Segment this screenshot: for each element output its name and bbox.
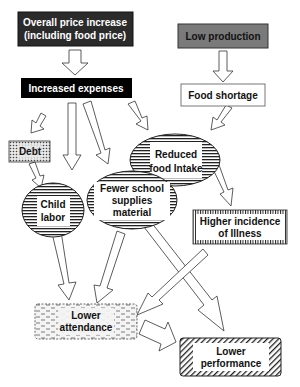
node-label: Debt xyxy=(19,146,42,157)
node-label: Overall price increase xyxy=(23,17,127,28)
arrow-expenses-to-debt xyxy=(31,113,46,133)
node-label: Increased expenses xyxy=(28,83,123,94)
arrow-supplies-to-attendance xyxy=(94,231,125,303)
node-label: Fewer school xyxy=(100,183,164,194)
node-lower-performance: Lower performance xyxy=(180,338,281,376)
node-label: supplies xyxy=(112,195,153,206)
node-label: labor xyxy=(41,212,66,223)
node-label: food Intake xyxy=(149,163,203,174)
node-lower-attendance: Lower attendance xyxy=(35,304,137,339)
node-label: material xyxy=(113,207,152,218)
node-child-labor: Child labor xyxy=(22,183,84,237)
node-label: performance xyxy=(201,358,262,369)
arrow-production-to-shortage xyxy=(213,51,233,82)
node-label: Reduced xyxy=(155,149,197,160)
node-label: of Illness xyxy=(218,228,262,239)
arrow-expenses-to-supplies xyxy=(83,101,110,164)
node-higher-illness: Higher incidence of Illness xyxy=(193,210,287,244)
arrow-childlabor-to-attendance xyxy=(52,231,76,300)
node-food-shortage: Food shortage xyxy=(181,84,265,106)
node-fewer-school-supplies: Fewer school supplies material xyxy=(87,171,177,229)
node-label: Food shortage xyxy=(188,90,258,101)
node-label: (including food price) xyxy=(24,30,126,41)
node-label: Child xyxy=(41,199,66,210)
arrow-debt-to-childlabor xyxy=(29,162,44,188)
flow-diagram: Overall price increase (including food p… xyxy=(0,0,300,387)
arrow-attendance-to-performance xyxy=(139,320,176,351)
arrow-shortage-to-food xyxy=(211,105,232,130)
node-label: Low production xyxy=(186,31,261,42)
node-price-increase: Overall price increase (including food p… xyxy=(18,12,133,46)
node-increased-expenses: Increased expenses xyxy=(21,78,132,98)
node-label: Lower xyxy=(216,346,246,357)
arrow-expenses-to-food xyxy=(128,101,148,130)
arrow-expenses-to-childlabor xyxy=(63,103,81,170)
node-debt: Debt xyxy=(9,141,50,162)
node-low-production: Low production xyxy=(178,24,268,48)
arrow-price-to-expenses xyxy=(62,50,88,75)
node-label: Higher incidence xyxy=(200,216,281,227)
node-label: Lower xyxy=(71,310,101,321)
node-label: attendance xyxy=(60,322,113,333)
